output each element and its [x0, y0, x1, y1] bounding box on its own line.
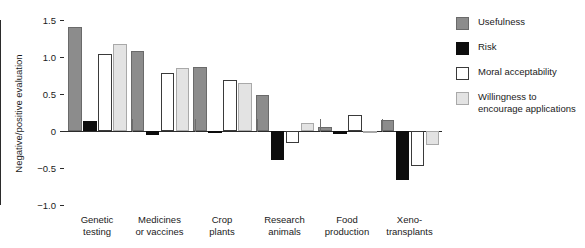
legend-swatch-willingness-icon	[456, 92, 469, 105]
bar	[238, 83, 252, 131]
bar	[396, 131, 410, 180]
bar	[83, 121, 97, 131]
legend-swatch-usefulness-icon	[456, 17, 469, 30]
y-tick-label: 1.5	[26, 20, 56, 21]
y-tick-label: −0.5	[26, 168, 56, 169]
bar	[348, 115, 362, 131]
legend-label-moral-acceptability: Moral acceptability	[478, 66, 557, 78]
legend-item-moral-acceptability: Moral acceptability	[456, 67, 576, 80]
bar	[113, 44, 127, 131]
group-separator-tick	[195, 119, 196, 132]
y-tick-label: 0	[26, 131, 56, 132]
y-tick-mark	[60, 205, 64, 206]
bar	[426, 131, 440, 145]
group-separator-tick	[132, 119, 133, 132]
bar	[333, 131, 347, 134]
y-axis-title: Negative/positive evaluation	[13, 24, 24, 204]
x-axis-label: Xeno- transplants	[369, 214, 451, 237]
zero-baseline	[64, 131, 442, 132]
y-tick-mark	[60, 94, 64, 95]
bar	[363, 131, 377, 133]
legend-item-risk: Risk	[456, 42, 576, 55]
chart-legend: Usefulness Risk Moral acceptability Will…	[456, 17, 576, 126]
y-tick-label: 1.0	[26, 57, 56, 58]
y-tick-mark	[60, 20, 64, 21]
bar	[223, 80, 237, 131]
chart-figure: Negative/positive evaluation 1.51.00.50−…	[0, 0, 585, 248]
group-separator-tick	[382, 119, 383, 132]
bar	[271, 131, 285, 160]
legend-swatch-moral-acceptability-icon	[456, 67, 469, 80]
legend-label-usefulness: Usefulness	[478, 16, 525, 28]
bar	[161, 73, 175, 131]
legend-label-willingness: Willingness to encourage applications	[478, 91, 576, 114]
bar	[208, 131, 222, 133]
legend-label-risk: Risk	[478, 41, 496, 53]
y-tick-mark	[60, 131, 64, 132]
bar	[68, 27, 82, 131]
group-separator-tick	[257, 119, 258, 132]
y-tick-mark	[60, 168, 64, 169]
y-axis-line	[0, 20, 1, 205]
bar	[176, 68, 190, 131]
y-tick-label: 0.5	[26, 94, 56, 95]
group-separator-tick	[320, 119, 321, 132]
y-tick-label: −1.0	[26, 205, 56, 206]
legend-swatch-risk-icon	[456, 42, 469, 55]
bar	[286, 131, 300, 143]
y-tick-mark	[60, 57, 64, 58]
bar	[98, 54, 112, 131]
bar	[301, 123, 315, 131]
bar	[411, 131, 425, 166]
bar	[146, 131, 160, 135]
legend-item-usefulness: Usefulness	[456, 17, 576, 30]
legend-item-willingness: Willingness to encourage applications	[456, 92, 576, 114]
